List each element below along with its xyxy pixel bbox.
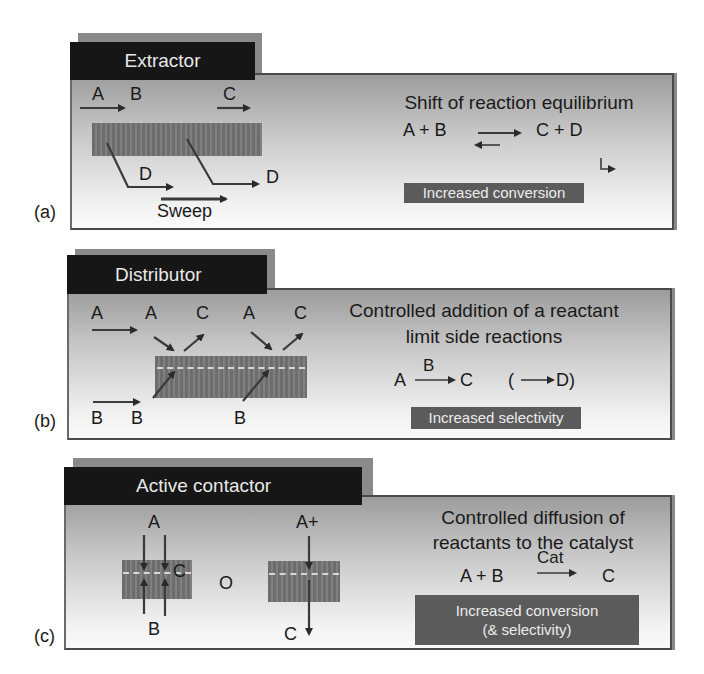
arrows-overlay	[0, 0, 704, 674]
arrow-icon	[243, 371, 268, 401]
arrow-icon	[154, 337, 173, 350]
arrow-icon	[187, 139, 258, 184]
arrow-icon	[251, 332, 271, 349]
arrow-icon	[184, 335, 203, 351]
arrow-icon	[107, 143, 172, 187]
arrow-icon	[153, 372, 174, 398]
arrow-icon	[283, 334, 302, 350]
removal-arrow-icon	[601, 158, 614, 169]
